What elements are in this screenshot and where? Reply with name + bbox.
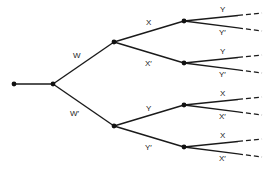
label-x-prime: X′ [145, 59, 152, 68]
tree-node-root [12, 82, 17, 87]
leaf-continuation-dash [238, 55, 262, 57]
leaf-label-x-prime: X′ [219, 154, 226, 163]
tree-node-w [112, 40, 117, 45]
leaf-label-y: Y [220, 47, 226, 56]
leaf-continuation-dash [238, 28, 262, 31]
tree-node-wp [112, 124, 117, 129]
tree-node-wxp [182, 61, 187, 66]
probability-tree-diagram: W W′ X X′ Y Y′ Y Y′ Y Y′ X X′ X X′ [0, 0, 266, 170]
leaf-edge [184, 21, 238, 28]
leaf-label-y: Y [220, 5, 226, 14]
leaf-label-x-prime: X′ [219, 112, 226, 121]
leaf-continuation-dash [238, 154, 262, 157]
label-y-prime: Y′ [145, 143, 152, 152]
leaf-continuation-dash [238, 70, 262, 73]
leaf-continuation-dash [238, 139, 262, 141]
tree-node-wpy [182, 103, 187, 108]
leaf-edge [184, 147, 238, 154]
leaf-label-x: X [220, 131, 226, 140]
tree-node-split [51, 82, 56, 87]
tree-edges [14, 21, 184, 147]
leaf-label-x: X [220, 89, 226, 98]
branch-edge [53, 42, 114, 84]
leaf-edge [184, 63, 238, 70]
leaf-continuation-dash [238, 112, 262, 115]
label-w: W [73, 51, 81, 60]
leaf-label-y-prime: Y′ [219, 28, 226, 37]
branch-edge [53, 84, 114, 126]
tree-node-wpyp [182, 145, 187, 150]
leaf-continuation-dash [238, 97, 262, 99]
leaf-continuation-dash [238, 13, 262, 15]
leaf-edge [184, 57, 238, 63]
leaf-edge [184, 105, 238, 112]
tree-node-wx [182, 19, 187, 24]
branch-labels: W W′ X X′ Y Y′ Y Y′ Y Y′ X X′ X X′ [70, 5, 226, 163]
label-x: X [146, 18, 152, 27]
leaf-label-y-prime: Y′ [219, 70, 226, 79]
leaf-edge [184, 99, 238, 105]
label-y: Y [146, 104, 152, 113]
label-w-prime: W′ [70, 109, 80, 118]
leaf-edge [184, 15, 238, 21]
leaf-edge [184, 141, 238, 147]
